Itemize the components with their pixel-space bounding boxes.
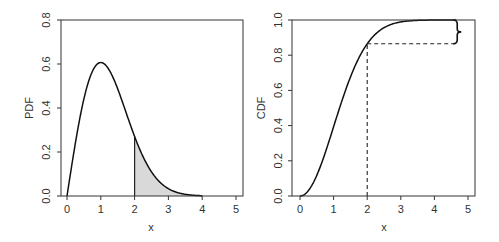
x-tick-label: 1 [98,203,104,215]
y-tick-label: 0.0 [272,188,284,203]
x-tick-label: 4 [199,203,205,215]
y-tick-label: 1.0 [272,12,284,27]
x-tick-label: 3 [165,203,171,215]
y-tick-label: 0.6 [272,83,284,98]
x-tick-label: 3 [398,203,404,215]
pdf-x-label: x [148,221,154,233]
y-tick-label: 0.4 [40,100,52,115]
x-tick-label: 2 [364,203,370,215]
figure: 012345 0.00.20.40.60.8 x PDF 012345 0.00… [0,0,499,242]
cdf-curve [300,20,456,196]
cdf-x-axis: 012345 [297,196,471,215]
pdf-plot-frame [61,20,243,196]
x-tick-label: 5 [233,203,239,215]
x-tick-label: 4 [431,203,437,215]
y-tick-label: 0.6 [40,56,52,71]
cdf-plot: 012345 0.00.20.40.60.81.0 x CDF [255,12,475,233]
shaded-tail-area [135,136,203,196]
x-tick-label: 1 [331,203,337,215]
pdf-x-axis: 012345 [64,196,239,215]
pdf-y-axis: 0.00.20.40.60.8 [40,12,61,203]
y-tick-label: 0.4 [272,118,284,133]
y-tick-label: 0.8 [272,48,284,63]
x-tick-label: 0 [297,203,303,215]
cdf-y-axis: 0.00.20.40.60.81.0 [272,12,292,203]
x-tick-label: 0 [64,203,70,215]
pdf-plot: 012345 0.00.20.40.60.8 x PDF [23,12,243,233]
y-tick-label: 0.2 [40,144,52,159]
y-tick-label: 0.8 [40,12,52,27]
x-tick-label: 2 [132,203,138,215]
cdf-y-label: CDF [255,96,267,119]
cdf-x-label: x [381,221,387,233]
x-tick-label: 5 [465,203,471,215]
pdf-y-label: PDF [23,97,35,119]
y-tick-label: 0.0 [40,188,52,203]
curly-brace-annotation [453,20,461,44]
y-tick-label: 0.2 [272,153,284,168]
